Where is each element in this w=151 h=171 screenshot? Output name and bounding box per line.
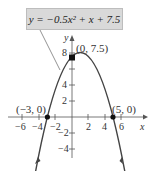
vertex-point	[69, 55, 75, 61]
point-right	[110, 114, 115, 119]
x-axis-arrow-icon	[143, 115, 148, 120]
x-tick-label: 6	[119, 122, 124, 132]
x-tick-label: 4	[102, 122, 107, 132]
x-tick-label: 2	[86, 122, 91, 132]
y-tick-label: −2	[58, 128, 69, 138]
point-label-vertex: (0, 7.5)	[76, 43, 108, 54]
x-axis-label: x	[140, 122, 144, 132]
point-label-right: (5, 0)	[112, 104, 136, 115]
y-axis-label: y	[64, 33, 68, 43]
y-tick-label: −4	[58, 144, 69, 154]
y-axis-arrow-icon	[70, 35, 75, 41]
callout-pointer	[40, 30, 60, 70]
y-tick-label: 2	[62, 96, 67, 106]
x-tick-label: −4	[32, 122, 43, 132]
point-label-left: (−3, 0)	[16, 104, 46, 115]
equation-box: y = −0.5x² + x + 7.5	[26, 8, 123, 30]
x-tick-label: −6	[15, 122, 26, 132]
y-tick-label: 4	[62, 80, 67, 90]
y-tick-label: 8	[62, 48, 67, 58]
point-left	[45, 114, 50, 119]
